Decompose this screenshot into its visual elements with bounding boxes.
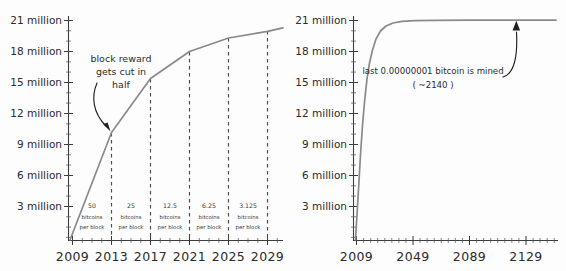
halving-era: 3.125 bitcoins per block bbox=[236, 202, 262, 231]
halving-era: 6.25 bitcoins per block bbox=[197, 202, 223, 231]
x-tick-label: 2013 bbox=[95, 249, 128, 264]
right-chart-svg: 21 million 18 million 15 million 12 mill… bbox=[290, 0, 566, 271]
y-tick-label: 18 million bbox=[295, 45, 347, 57]
y-tick-label: 6 million bbox=[17, 169, 62, 181]
annotation-line: ( ~2140 ) bbox=[412, 80, 453, 90]
halving-unit-line1: bitcoins bbox=[81, 214, 102, 220]
y-tick-label: 15 million bbox=[10, 76, 62, 88]
annotation-line: half bbox=[112, 79, 130, 90]
last-bitcoin-annotation: last 0.00000001 bitcoin is mined ( ~2140… bbox=[362, 21, 520, 90]
annotation-arrow-curve bbox=[94, 83, 106, 126]
y-tick-label: 21 million bbox=[295, 14, 347, 26]
x-tick-label: 2017 bbox=[134, 249, 167, 264]
halving-reward: 12.5 bbox=[163, 202, 177, 209]
y-tick-label: 3 million bbox=[17, 200, 62, 212]
x-tick-label: 2009 bbox=[56, 249, 89, 264]
annotation-arrow-curve bbox=[503, 32, 517, 77]
y-tick-label: 15 million bbox=[295, 76, 347, 88]
halving-unit-line2: per block bbox=[197, 224, 223, 231]
halving-unit-line1: bitcoins bbox=[237, 214, 258, 220]
left-y-axis-labels: 21 million 18 million 15 million 12 mill… bbox=[10, 14, 62, 212]
y-tick-label: 3 million bbox=[302, 200, 347, 212]
y-tick-label: 9 million bbox=[17, 138, 62, 150]
right-supply-curve bbox=[356, 20, 557, 240]
halving-reward: 50 bbox=[88, 202, 96, 209]
left-x-axis-labels: 2009 2013 2017 2021 2025 2029 bbox=[56, 249, 284, 264]
halving-reward: 25 bbox=[127, 202, 135, 209]
y-tick-label: 18 million bbox=[10, 45, 62, 57]
halving-unit-line1: bitcoins bbox=[120, 214, 141, 220]
right-chart-panel: 21 million 18 million 15 million 12 mill… bbox=[290, 0, 566, 271]
halving-era-labels: 50 bitcoins per block 25 bitcoins per bl… bbox=[80, 202, 262, 231]
halving-reward: 6.25 bbox=[202, 202, 216, 209]
annotation-line: gets cut in bbox=[96, 66, 146, 77]
halving-era: 12.5 bitcoins per block bbox=[158, 202, 184, 231]
y-tick-label: 12 million bbox=[295, 107, 347, 119]
x-tick-label: 2129 bbox=[509, 249, 542, 264]
bitcoin-supply-figure: 21 million 18 million 15 million 12 mill… bbox=[0, 0, 566, 271]
halving-unit-line2: per block bbox=[119, 224, 145, 231]
left-chart-svg: 21 million 18 million 15 million 12 mill… bbox=[0, 0, 290, 271]
x-tick-label: 2049 bbox=[396, 249, 429, 264]
left-chart-panel: 21 million 18 million 15 million 12 mill… bbox=[0, 0, 290, 271]
annotation-line: last 0.00000001 bitcoin is mined bbox=[362, 66, 503, 76]
y-tick-label: 12 million bbox=[10, 107, 62, 119]
halving-unit-line1: bitcoins bbox=[159, 214, 180, 220]
halving-reward: 3.125 bbox=[239, 202, 257, 209]
x-tick-label: 2029 bbox=[251, 249, 284, 264]
x-tick-label: 2089 bbox=[453, 249, 486, 264]
annotation-arrow-head bbox=[513, 21, 521, 31]
halving-unit-line2: per block bbox=[80, 224, 106, 231]
halving-era: 25 bitcoins per block bbox=[119, 202, 145, 231]
x-tick-label: 2021 bbox=[173, 249, 206, 264]
x-tick-label: 2025 bbox=[212, 249, 245, 264]
y-tick-label: 6 million bbox=[302, 169, 347, 181]
right-x-axis-labels: 2009 2049 2089 2129 bbox=[340, 249, 543, 264]
halving-unit-line1: bitcoins bbox=[198, 214, 219, 220]
halving-unit-line2: per block bbox=[158, 224, 184, 231]
y-tick-label: 9 million bbox=[302, 138, 347, 150]
halving-unit-line2: per block bbox=[236, 224, 262, 231]
x-tick-label: 2009 bbox=[340, 249, 373, 264]
right-y-axis-labels: 21 million 18 million 15 million 12 mill… bbox=[295, 14, 347, 212]
y-tick-label: 21 million bbox=[10, 14, 62, 26]
annotation-line: block reward bbox=[90, 53, 151, 64]
